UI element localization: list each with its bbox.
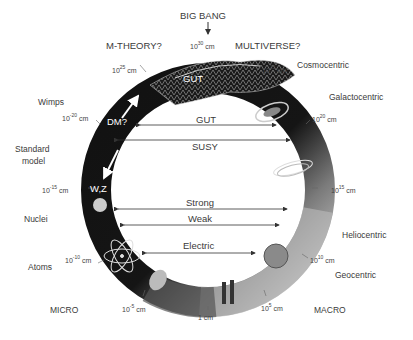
scale-10-25-right: 1025 cm [262, 64, 287, 74]
macro-label: MACRO [314, 305, 346, 315]
weak-force-label: Weak [188, 213, 212, 224]
scale-10-5: 105 cm [261, 302, 283, 312]
scale-10-minus-15: 10-15 cm [42, 184, 68, 194]
scale-10-minus-5: 10-5 cm [122, 303, 146, 313]
nuclei-label: Nuclei [24, 214, 48, 224]
wimps-label: Wimps [38, 97, 64, 107]
scale-10-10: 1010 cm [310, 254, 335, 264]
gut-ring-label: GUT [183, 73, 203, 84]
scale-10-25-left: 1025 cm [112, 64, 137, 74]
heliocentric-label: Heliocentric [342, 230, 386, 240]
human-figure [222, 282, 226, 304]
standard-model-label-line2: model [22, 156, 45, 166]
uroboros-ring [0, 0, 413, 340]
susy-force-label: SUSY [192, 141, 218, 152]
earth-icon [264, 244, 288, 268]
atoms-label: Atoms [28, 262, 52, 272]
cosmocentric-label: Cosmocentric [297, 60, 349, 70]
geocentric-label: Geocentric [335, 270, 376, 280]
scale-10-minus-10: 10-10 cm [65, 254, 91, 264]
scale-10-30: 1030 cm [190, 40, 215, 50]
dm-ring-label: DM? [107, 116, 127, 127]
electric-force-label: Electric [183, 240, 214, 251]
scale-1-cm: 1 cm [198, 314, 213, 321]
big-bang-label: BIG BANG [180, 10, 226, 21]
gut-force-label: GUT [196, 114, 216, 125]
m-theory-label: M-THEORY? [106, 40, 162, 51]
standard-model-label-line1: Standard [15, 144, 50, 154]
wz-ring-label: W,Z [90, 183, 107, 194]
scale-10-20: 1020 cm [312, 113, 337, 123]
scale-10-minus-20: 10-20 cm [62, 112, 88, 122]
scale-10-15: 1015 cm [331, 184, 356, 194]
strong-force-label: Strong [186, 197, 214, 208]
micro-label: MICRO [50, 305, 78, 315]
nucleus-icon [93, 198, 107, 212]
multiverse-label: MULTIVERSE? [235, 40, 300, 51]
galactocentric-label: Galactocentric [329, 92, 383, 102]
